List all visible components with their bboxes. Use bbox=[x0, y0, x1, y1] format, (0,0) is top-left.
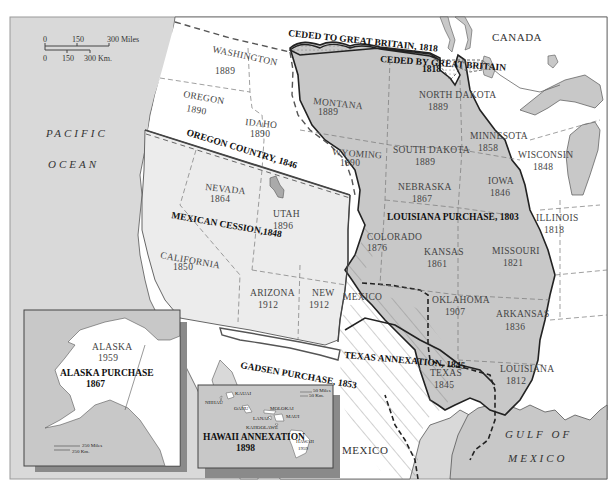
svg-text:MINNESOTA: MINNESOTA bbox=[470, 131, 528, 141]
island-kahoolawe: KAHOOLAWE bbox=[246, 425, 278, 430]
svg-text:1850: 1850 bbox=[173, 262, 193, 272]
scale-km-150: 150 bbox=[62, 54, 74, 63]
svg-text:ARIZONA: ARIZONA bbox=[250, 288, 295, 298]
alaska-scale-km: 250 Km. bbox=[72, 449, 90, 454]
alaska-scale-miles: 250 Miles bbox=[82, 443, 102, 448]
svg-text:1889: 1889 bbox=[428, 102, 448, 112]
island-kauai: KAUAI bbox=[235, 391, 251, 396]
svg-text:1912: 1912 bbox=[309, 300, 329, 310]
svg-text:1889: 1889 bbox=[215, 66, 235, 76]
svg-text:UTAH: UTAH bbox=[273, 209, 300, 219]
alaska-name: ALASKA bbox=[92, 342, 132, 352]
svg-text:ARKANSAS: ARKANSAS bbox=[496, 309, 550, 319]
svg-text:ILLINOIS: ILLINOIS bbox=[536, 213, 579, 223]
svg-text:1848: 1848 bbox=[533, 162, 553, 172]
svg-text:1889: 1889 bbox=[318, 107, 338, 117]
alaska-inset: ALASKA 1959 ALASKA PURCHASE 1867 250 Mil… bbox=[24, 310, 187, 472]
scale-miles-0: 0 bbox=[43, 35, 47, 44]
svg-text:MEXICO: MEXICO bbox=[343, 292, 382, 302]
svg-text:NEBRASKA: NEBRASKA bbox=[398, 182, 452, 192]
canada-label: CANADA bbox=[492, 31, 542, 43]
island-maui: MAUI bbox=[286, 414, 300, 419]
scale-km-300: 300 Km. bbox=[84, 54, 112, 63]
label-hawaii-annexation-year: 1898 bbox=[236, 443, 255, 453]
svg-text:1907: 1907 bbox=[445, 307, 465, 317]
hawaii-scale-km: 50 Km. bbox=[309, 393, 324, 398]
label-ceded-by-gb-year: 1818 bbox=[422, 64, 441, 74]
svg-text:NEW: NEW bbox=[312, 288, 335, 298]
svg-text:OKLAHOMA: OKLAHOMA bbox=[432, 295, 490, 305]
ocean-label: OCEAN bbox=[48, 158, 99, 170]
svg-text:1812: 1812 bbox=[506, 376, 526, 386]
svg-text:1821: 1821 bbox=[503, 258, 523, 268]
svg-text:1890: 1890 bbox=[250, 129, 270, 139]
svg-text:SOUTH DAKOTA: SOUTH DAKOTA bbox=[393, 145, 470, 155]
svg-text:1890: 1890 bbox=[340, 158, 360, 168]
svg-text:TEXAS: TEXAS bbox=[430, 368, 462, 378]
svg-text:COLORADO: COLORADO bbox=[367, 232, 422, 242]
svg-text:1861: 1861 bbox=[427, 259, 447, 269]
alaska-year: 1959 bbox=[98, 353, 118, 363]
island-niihau: NIIHAU bbox=[205, 400, 223, 405]
svg-text:1836: 1836 bbox=[505, 322, 525, 332]
scale-miles-150: 150 bbox=[72, 35, 84, 44]
island-oahu: OAHU bbox=[234, 406, 249, 411]
svg-text:LOUISIANA: LOUISIANA bbox=[500, 364, 554, 374]
svg-text:1896: 1896 bbox=[273, 221, 293, 231]
svg-text:1876: 1876 bbox=[367, 243, 387, 253]
hawaii-year: 1959 bbox=[298, 446, 309, 451]
label-alaska-purchase: ALASKA PURCHASE bbox=[60, 368, 154, 378]
svg-text:1845: 1845 bbox=[434, 380, 454, 390]
svg-text:KANSAS: KANSAS bbox=[424, 247, 464, 257]
island-lanai: LANAI bbox=[253, 416, 269, 421]
svg-text:1818: 1818 bbox=[544, 225, 564, 235]
scale-miles-300: 300 Miles bbox=[107, 35, 139, 44]
svg-text:IOWA: IOWA bbox=[488, 176, 514, 186]
mexico-gulf-label: MEXICO bbox=[507, 452, 568, 464]
svg-text:NORTH DAKOTA: NORTH DAKOTA bbox=[419, 90, 496, 100]
svg-text:1867: 1867 bbox=[412, 194, 432, 204]
svg-text:1889: 1889 bbox=[415, 157, 435, 167]
scale-km-0: 0 bbox=[43, 54, 47, 63]
pacific-label: PACIFIC bbox=[45, 127, 108, 139]
label-louisiana-purchase: LOUISIANA PURCHASE, 1803 bbox=[387, 212, 519, 222]
svg-text:WISCONSIN: WISCONSIN bbox=[518, 150, 573, 160]
label-alaska-purchase-year: 1867 bbox=[86, 379, 105, 389]
svg-text:1864: 1864 bbox=[210, 194, 230, 204]
territorial-acquisitions-map: 0 150 300 Miles 0 150 300 Km. PACIFIC OC… bbox=[0, 0, 616, 489]
gulf-of-label: GULF OF bbox=[505, 428, 572, 440]
hawaii-inset: KAUAI NIIHAU OAHU MOLOKAI MAUI LANAI KAH… bbox=[198, 385, 340, 478]
island-molokai: MOLOKAI bbox=[270, 406, 294, 411]
svg-text:1858: 1858 bbox=[478, 143, 498, 153]
svg-text:1912: 1912 bbox=[258, 300, 278, 310]
label-hawaii-annexation: HAWAII ANNEXATION bbox=[203, 432, 305, 442]
mexico-country-label: MEXICO bbox=[342, 444, 388, 456]
svg-text:1846: 1846 bbox=[490, 188, 510, 198]
svg-text:MISSOURI: MISSOURI bbox=[492, 246, 540, 256]
